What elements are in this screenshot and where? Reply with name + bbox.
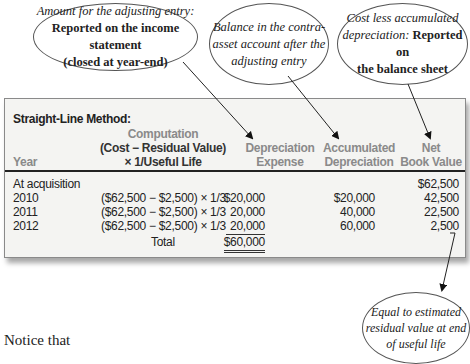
callout-text: the balance sheet <box>357 61 448 78</box>
header-text: Accumulated <box>323 141 395 155</box>
cell-year: At acquisition <box>13 177 80 192</box>
callout-text: asset account after the <box>213 36 326 53</box>
callout-balance-sheet: Cost less accumulated depreciation: Repo… <box>337 3 468 85</box>
cell-computation: ($62,500 − $2,500) × 1/3 <box>101 205 226 220</box>
callout-text: depreciation: <box>342 28 409 42</box>
header-text: Book Value <box>399 155 463 169</box>
callout-text: Reported on the income statement <box>34 20 197 54</box>
cell-nbv: $62,500 <box>418 177 459 192</box>
total-label: Total <box>151 235 175 250</box>
header-year: Year <box>13 155 37 169</box>
callout-text: Cost less accumulated <box>347 10 459 27</box>
cell-dep-exp: $20,000 <box>224 191 265 206</box>
callout-text: adjusting entry <box>231 53 306 70</box>
straight-line-table: Straight-Line Method: Computation (Cost … <box>4 98 466 258</box>
header-net-book-value: Net Book Value <box>399 141 463 169</box>
callout-residual-value: Equal to estimated residual value at end… <box>362 292 470 364</box>
header-depreciation-expense: Depreciation Expense <box>241 141 319 169</box>
cell-computation: ($62,500 − $2,500) × 1/3 <box>101 219 226 234</box>
body-text: Notice that <box>4 332 70 349</box>
cell-dep-exp: 20,000 <box>226 219 265 235</box>
cell-year: 2010 <box>13 191 39 206</box>
cell-nbv: 2,500 <box>430 219 459 234</box>
cell-acc-dep: $20,000 <box>334 191 375 206</box>
callout-contra-asset: Balance in the contra- asset account aft… <box>209 3 329 85</box>
header-text: × 1/Useful Life <box>93 155 233 169</box>
callout-income-statement: Amount for the adjusting entry: Reported… <box>33 3 198 71</box>
callout-text: (closed at year-end) <box>63 54 167 71</box>
total-value: $60,000 <box>224 235 265 253</box>
header-accumulated-depreciation: Accumulated Depreciation <box>323 141 395 169</box>
cell-year: 2012 <box>13 219 39 234</box>
cell-dep-exp: 20,000 <box>230 205 265 220</box>
header-text: (Cost − Residual Value) <box>93 141 233 155</box>
callout-text: of useful life <box>386 336 445 352</box>
cell-computation: ($62,500 − $2,500) × 1/3 <box>101 191 226 206</box>
callout-text: Balance in the contra- <box>213 19 325 36</box>
table-title: Straight-Line Method: <box>13 112 131 126</box>
header-divider <box>5 170 465 172</box>
callout-text: residual value at end <box>366 320 467 336</box>
header-text: Net <box>399 141 463 155</box>
cell-acc-dep: 40,000 <box>340 205 375 220</box>
cell-year: 2011 <box>13 205 38 220</box>
cell-nbv: 42,500 <box>424 191 459 206</box>
callout-text: Equal to estimated <box>371 304 461 320</box>
callout-text: Amount for the adjusting entry: <box>37 3 195 20</box>
header-computation: Computation (Cost − Residual Value) × 1/… <box>93 127 233 169</box>
header-text: Depreciation <box>241 141 319 155</box>
cell-nbv: 22,500 <box>424 205 459 220</box>
header-text: Computation <box>93 127 233 141</box>
header-text: Depreciation <box>323 155 395 169</box>
cell-acc-dep: 60,000 <box>340 219 375 234</box>
header-text: Expense <box>241 155 319 169</box>
